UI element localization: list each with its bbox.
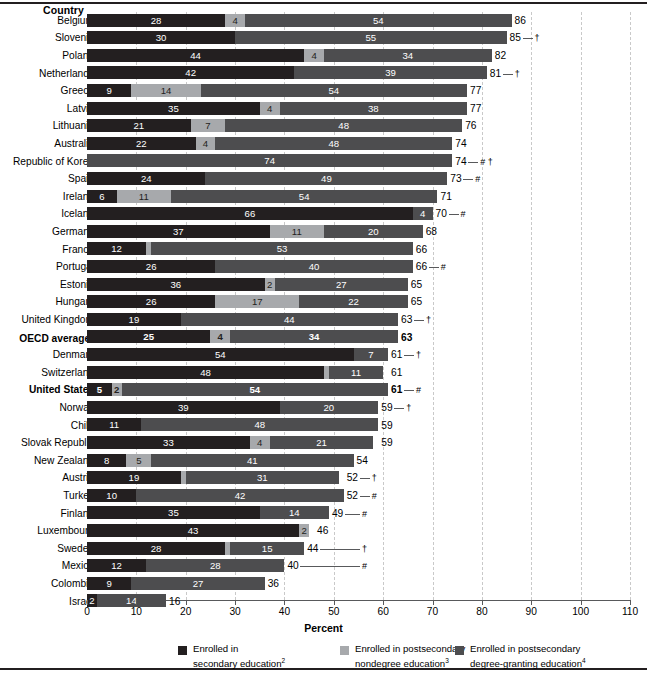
bar-segment-secondary: 36 [87,278,265,291]
x-tick-label-30: 30 [229,606,240,617]
bar-segment-secondary: 9 [87,84,131,97]
stacked-bar: 2640 [87,260,413,273]
significance-flag: † [362,544,367,553]
significance-flag: # [416,386,421,395]
bar-segment-degree: 20 [280,401,379,414]
stacked-bar: 1931 [87,471,344,484]
bar-segment-secondary: 19 [87,471,181,484]
table-row: Spain244973# [0,170,647,188]
bar-segment-secondary: 35 [87,102,260,115]
flag-leader-line [345,514,360,515]
bar-segment-secondary: 25 [87,330,210,343]
stacked-bar: 4811 [87,366,388,379]
bar-total-label: 40 [287,561,298,571]
table-row: Germany37112068 [0,223,647,241]
x-tick-110 [630,600,631,605]
x-tick-60 [383,600,384,605]
stacked-bar: 1042 [87,489,344,502]
x-tick-90 [531,600,532,605]
bar-total-label: 49 [332,508,343,518]
bar-total-label: 52 [347,491,358,501]
significance-flag: † [426,315,431,324]
table-row: Colombia92736 [0,575,647,593]
stacked-bar: 91454 [87,84,467,97]
bar-segment-secondary: 44 [87,49,304,62]
bar-segment-secondary: 66 [87,207,413,220]
row-label-oecd-average: OECD average1 [19,331,94,344]
bar-total-label: 63 [401,315,412,325]
table-row: Slovak Republic3342159 [0,434,647,452]
row-label-new-zealand: New Zealand [34,456,94,466]
table-row: Denmark54761† [0,346,647,364]
x-tick-label-50: 50 [328,606,339,617]
table-row: Portugal264066# [0,258,647,276]
table-row: Finland351449# [0,505,647,523]
table-row: Republic of Korea7474# † [0,153,647,171]
stacked-bar: 3920 [87,401,378,414]
flag-leader-line [414,320,424,321]
bar-segment-secondary: 39 [87,401,280,414]
x-tick-label-100: 100 [572,606,589,617]
stacked-bar: 61154 [87,190,437,203]
bar-total-label: 68 [426,227,437,237]
row-label-netherlands: Netherlands [39,68,94,78]
row-label-united-kingdom: United Kingdom [22,315,95,325]
x-tick-label-70: 70 [427,606,438,617]
stacked-bar: 74 [87,154,452,167]
bar-total-label: 16 [169,596,180,606]
stacked-bar: 371120 [87,225,423,238]
bar-total-label: 46 [317,526,328,536]
bar-total-label: 52 [347,473,358,483]
bar-segment-degree: 54 [201,84,468,97]
bar-total-label: 85 [510,33,521,43]
bar-segment-degree: 38 [280,102,468,115]
legend-label: Enrolled in postsecondarynondegree educa… [355,643,465,669]
bar-total-label: 65 [411,280,422,290]
bar-segment-nondegree: 17 [215,295,299,308]
row-label-luxembourg: Luxembourg [37,526,94,536]
table-row: Sweden281544† [0,540,647,558]
bar-segment-secondary: 26 [87,295,215,308]
x-tick-label-0: 0 [84,606,90,617]
bar-segment-nondegree: 4 [304,49,324,62]
bar-segment-secondary: 26 [87,260,215,273]
bar-segment-nondegree: 2 [112,383,122,396]
legend-swatch-nondegree-icon [340,646,349,655]
table-row: Greece9145477 [0,82,647,100]
stacked-bar: 35438 [87,102,467,115]
bar-segment-secondary: 8 [87,454,126,467]
bar-total-label: 86 [515,16,526,26]
bar-segment-nondegree: 5 [126,454,151,467]
bar-segment-degree: 34 [324,49,492,62]
bar-segment-secondary: 5 [87,383,112,396]
stacked-bar: 3514 [87,506,329,519]
bar-segment-degree: 54 [171,190,438,203]
bar-total-label: 59 [381,403,392,413]
x-tick-50 [334,600,335,605]
x-tick-label-60: 60 [378,606,389,617]
significance-flag: # [362,509,367,518]
legend-label: Enrolled in postsecondarydegree-granting… [470,643,586,669]
flag-leader-line [404,390,414,391]
bar-segment-secondary: 33 [87,436,250,449]
table-row: Ireland6115471 [0,188,647,206]
significance-flag: # [362,562,367,571]
stacked-bar: 927 [87,577,265,590]
bar-segment-secondary: 11 [87,418,141,431]
bar-segment-secondary: 9 [87,577,131,590]
x-tick-30 [235,600,236,605]
significance-flag: # [461,210,466,219]
significance-flag: † [535,34,540,43]
stacked-bar: 28454 [87,14,512,27]
bar-segment-nondegree: 14 [131,84,200,97]
bar-segment-secondary: 10 [87,489,136,502]
table-row: Estonia3622765 [0,276,647,294]
x-tick-40 [284,600,285,605]
bar-segment-degree: 41 [151,454,353,467]
stacked-bar: 25434 [87,330,398,343]
bar-total-label: 73 [450,174,461,184]
legend-swatch-degree-icon [455,646,464,655]
x-tick-80 [482,600,483,605]
flag-leader-line [394,408,404,409]
bar-segment-secondary: 28 [87,14,225,27]
